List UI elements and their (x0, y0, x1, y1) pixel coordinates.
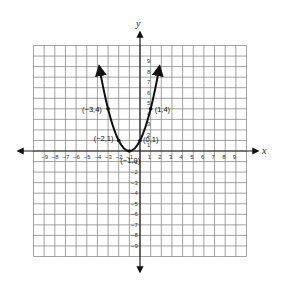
x-tick-label: −9 (41, 154, 49, 160)
point-label: (−1,0) (120, 156, 140, 165)
x-axis-title: x (261, 145, 267, 156)
tick-labels: −9−8−7−6−5−4−3−2−1123456789987654321−1−2… (41, 58, 237, 249)
point-marker (138, 139, 142, 143)
point-label: (−2,1) (94, 134, 114, 143)
x-tick-label: −3 (105, 154, 113, 160)
point-label: (−3,4) (82, 105, 102, 114)
coordinate-plane: x y −9−8−7−6−5−4−3−2−1123456789987654321… (0, 0, 287, 288)
y-tick-label: −3 (131, 180, 139, 186)
x-tick-label: −4 (94, 154, 102, 160)
y-tick-label: −7 (131, 222, 139, 228)
point-marker (149, 107, 153, 111)
point-marker (128, 149, 132, 153)
point-label: (0,1) (143, 135, 159, 144)
y-tick-label: −9 (131, 243, 139, 249)
x-tick-label: −7 (62, 154, 70, 160)
x-tick-label: −6 (73, 154, 81, 160)
y-tick-label: −6 (131, 211, 139, 217)
point-marker (117, 139, 121, 143)
y-tick-label: −4 (131, 190, 139, 196)
point-label: (1,4) (155, 105, 171, 114)
point-marker (106, 107, 110, 111)
x-tick-label: −8 (52, 154, 60, 160)
x-tick-label: −5 (84, 154, 92, 160)
y-tick-label: −2 (131, 169, 139, 175)
y-axis-title: y (135, 18, 141, 29)
y-tick-label: −8 (131, 232, 139, 238)
y-tick-label: −5 (131, 201, 139, 207)
